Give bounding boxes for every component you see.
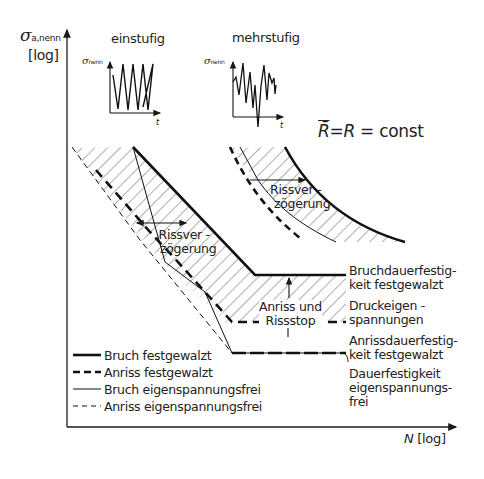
inset-title-mehrstufig: mehrstufig: [232, 31, 300, 45]
inset-xlabel-mehrstufig: t: [280, 121, 283, 130]
y-axis-scale: [log]: [28, 48, 59, 62]
label-anrissdauerfestigkeit: Anrissdauerfestig- keit festgewalzt: [349, 334, 457, 362]
x-axis-symbol: N: [404, 431, 413, 446]
inset-mehrstufig: [233, 62, 283, 127]
legend-samples: [73, 355, 101, 406]
label-bruchdauerfestigkeit: Bruchdauerfestig- keit festgewalzt: [349, 264, 456, 292]
x-axis-scale: [log]: [417, 431, 445, 446]
legend-item-anriss-eigenspannungsfrei: Anriss eigenspannungsfrei: [104, 399, 262, 413]
inset-einstufig: [110, 62, 160, 113]
y-axis-subscript: a,nenn: [31, 33, 60, 43]
annotation-rissverzoegerung-2: Rissver - zögerung: [270, 183, 330, 211]
x-axis-label: N [log]: [404, 432, 446, 446]
label-dauerfestigkeit: Dauerfestigkeit eigenspannungs- frei: [349, 367, 452, 409]
legend-item-bruch-eigenspannungsfrei: Bruch eigenspannungsfrei: [104, 382, 261, 396]
inset-title-einstufig: einstufig: [111, 32, 165, 46]
annotation-anriss-rissstop: Anriss und Rissstop: [259, 300, 322, 328]
inset-ylabel-mehrstufig: σnenn: [204, 56, 224, 66]
legend-item-anriss-festgewalzt: Anriss festgewalzt: [104, 365, 213, 379]
inset-ylabel-einstufig: σnenn: [82, 56, 102, 66]
legend-item-bruch-festgewalzt: Bruch festgewalzt: [104, 348, 211, 362]
label-druckeigenspannungen: Druckeigen - spannungen: [349, 299, 425, 327]
annotation-rissverzoegerung-1: Rissver - zögerung: [152, 228, 216, 256]
condition-label: R̄=R = const: [318, 122, 424, 140]
y-axis-symbol: σ: [20, 25, 31, 45]
leader-line-dauerfestigkeit: [344, 353, 348, 362]
inset-xlabel-einstufig: t: [156, 118, 159, 127]
y-axis-label: σa,nenn: [20, 28, 61, 45]
